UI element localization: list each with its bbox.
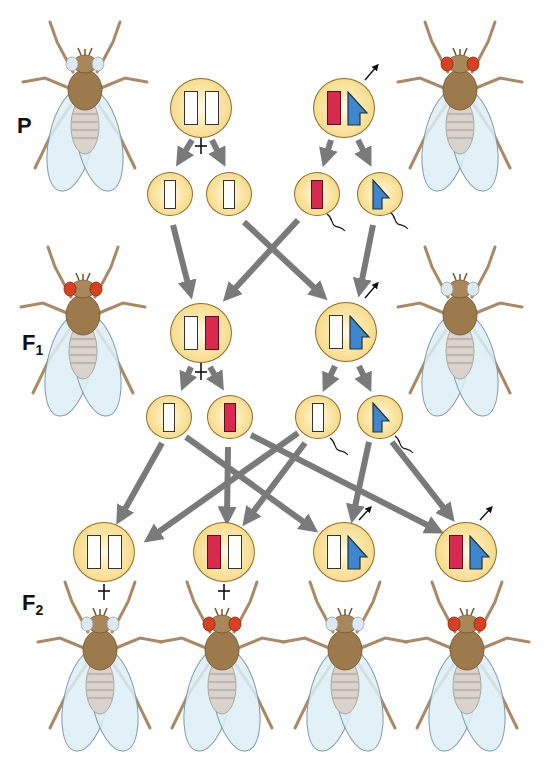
fly-p-female-white-eye [23, 22, 147, 195]
fly-f1-female-red-eye [21, 247, 145, 420]
genetics-cross-diagram: P F1 F2 [0, 0, 550, 763]
fly-f2-female-red-eye [160, 582, 284, 755]
fly-f1-male-white-eye [398, 247, 522, 420]
fly-f2-male-white-eye [283, 582, 407, 755]
fly-f2-female-white-eye [38, 582, 162, 755]
fly-p-male-red-eye [398, 22, 522, 195]
fly-f2-male-red-eye [405, 582, 529, 755]
flies-layer [0, 0, 550, 763]
